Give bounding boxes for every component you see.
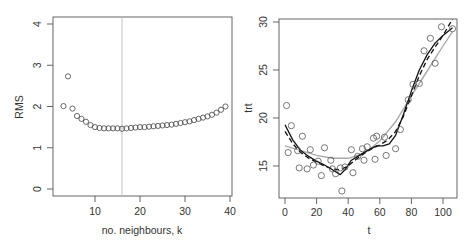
smooth-curves <box>285 19 453 175</box>
figure: 01234 10203040 RMS no. neighbours, k 152… <box>0 0 475 246</box>
data-point <box>318 173 324 179</box>
data-point <box>304 166 310 172</box>
data-point <box>299 133 305 139</box>
data-point <box>383 152 389 158</box>
y-tick-label: 30 <box>257 16 269 28</box>
data-point <box>350 170 356 176</box>
x-tick-label: 20 <box>311 206 323 218</box>
data-point <box>339 188 345 194</box>
data-point <box>393 146 399 152</box>
x-tick-label: 40 <box>342 206 354 218</box>
y-axis: 15202530 <box>257 16 279 172</box>
data-point <box>307 147 313 153</box>
y-tick-label: 25 <box>257 64 269 76</box>
plot-frame <box>279 19 457 198</box>
dashed-smooth-line <box>285 19 453 170</box>
data-point <box>361 157 367 163</box>
data-point <box>288 123 294 129</box>
x-axis-label: t <box>368 224 371 236</box>
y-tick-label: 20 <box>257 112 269 124</box>
data-point <box>432 60 438 66</box>
data-point <box>427 35 433 41</box>
x-tick-label: 0 <box>282 206 288 218</box>
data-point <box>438 24 444 30</box>
y-tick-label: 15 <box>257 160 269 172</box>
x-axis: 020406080100 <box>282 198 452 218</box>
data-point <box>421 48 427 54</box>
x-tick-label: 60 <box>374 206 386 218</box>
x-tick-label: 100 <box>434 206 452 218</box>
data-point <box>321 145 327 151</box>
trt-vs-t-chart: 15202530 020406080100 trt t <box>0 0 475 246</box>
data-point <box>283 102 289 108</box>
data-point <box>348 147 354 153</box>
x-tick-label: 80 <box>406 206 418 218</box>
data-point <box>296 165 302 171</box>
y-axis-label: trt <box>242 103 254 112</box>
trt-points <box>283 24 455 194</box>
data-point <box>372 156 378 162</box>
data-point <box>285 149 291 155</box>
